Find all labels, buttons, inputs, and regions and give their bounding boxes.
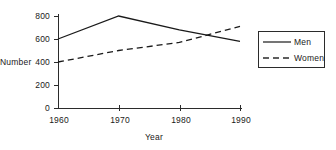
- chart-legend: Men Women: [258, 31, 325, 68]
- legend-entry-men: Men: [259, 34, 324, 50]
- x-tick-label-1990: 1990: [220, 116, 262, 125]
- legend-label-men: Men: [294, 38, 311, 47]
- x-tick-label-1970: 1970: [99, 116, 141, 125]
- x-tick-label-1960: 1960: [38, 116, 80, 125]
- y-tick-label-600: 600: [14, 35, 50, 44]
- legend-entry-women: Women: [259, 50, 324, 66]
- y-tick-label-200: 200: [14, 81, 50, 90]
- y-tick-label-0: 0: [14, 104, 50, 113]
- x-axis-title: Year: [133, 133, 175, 142]
- y-tick-label-800: 800: [14, 12, 50, 21]
- series-line-women: [58, 26, 240, 62]
- y-axis-title: Number: [0, 58, 31, 67]
- legend-swatch-dashed-icon: [262, 53, 292, 63]
- chart-screenshot: 800 600 400 200 0 Number 1960 1970 1980 …: [0, 0, 336, 150]
- legend-label-women: Women: [294, 54, 324, 63]
- line-chart-figure: 800 600 400 200 0 Number 1960 1970 1980 …: [0, 0, 336, 150]
- series-line-men: [58, 16, 240, 41]
- x-tick-label-1980: 1980: [160, 116, 202, 125]
- legend-swatch-solid-icon: [262, 37, 292, 47]
- plot-area: [0, 0, 336, 150]
